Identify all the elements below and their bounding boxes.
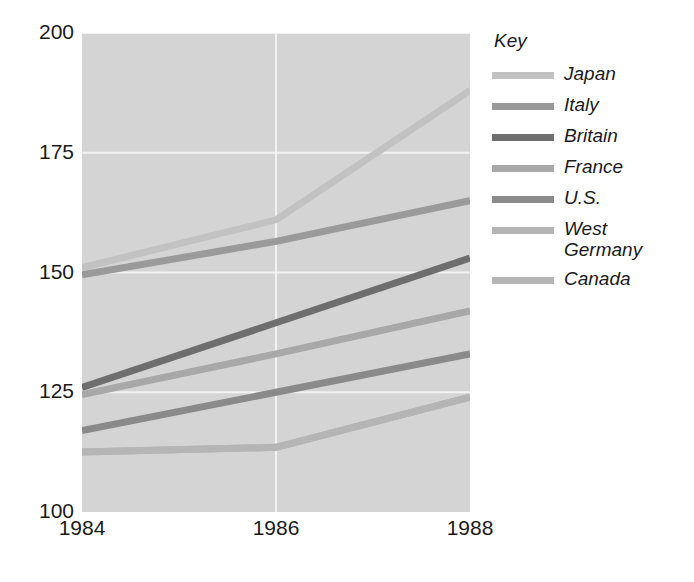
legend-item[interactable]: Italy — [492, 94, 692, 118]
y-axis-tick-label: 125 — [10, 379, 74, 403]
legend-item-label: West Germany — [564, 218, 642, 261]
legend-swatch — [492, 103, 554, 110]
legend-item-label: U.S. — [564, 187, 601, 208]
legend-swatch — [492, 72, 554, 79]
y-axis-tick-label: 175 — [10, 140, 74, 164]
legend-item-label: Italy — [564, 94, 599, 115]
legend-item-label: Canada — [564, 268, 631, 289]
y-axis-tick-label: 150 — [10, 260, 74, 284]
x-axis-tick-label: 1988 — [430, 516, 510, 540]
legend-item[interactable]: U.S. — [492, 187, 692, 211]
legend-item-label: Britain — [564, 125, 618, 146]
plot-canvas — [82, 33, 470, 512]
legend-item[interactable]: Britain — [492, 125, 692, 149]
legend-swatch — [492, 134, 554, 141]
legend: Key JapanItalyBritainFranceU.S.West Germ… — [492, 30, 692, 299]
legend-swatch — [492, 227, 554, 234]
legend-item[interactable]: West Germany — [492, 218, 692, 261]
legend-item-label: Japan — [564, 63, 616, 84]
legend-item[interactable]: Japan — [492, 63, 692, 87]
plot-area — [82, 33, 470, 512]
line-chart: 200175150125100 198419861988 Key JapanIt… — [0, 0, 694, 582]
legend-swatch — [492, 277, 554, 284]
y-axis-tick-label: 200 — [10, 20, 74, 44]
legend-swatch — [492, 196, 554, 203]
gridlines — [82, 33, 470, 512]
x-axis-tick-label: 1984 — [42, 516, 122, 540]
legend-item[interactable]: Canada — [492, 268, 692, 292]
legend-item-label: France — [564, 156, 623, 177]
legend-swatch — [492, 165, 554, 172]
x-axis-tick-label: 1986 — [236, 516, 316, 540]
legend-items: JapanItalyBritainFranceU.S.West GermanyC… — [492, 63, 692, 292]
legend-item[interactable]: France — [492, 156, 692, 180]
legend-title: Key — [494, 30, 692, 52]
